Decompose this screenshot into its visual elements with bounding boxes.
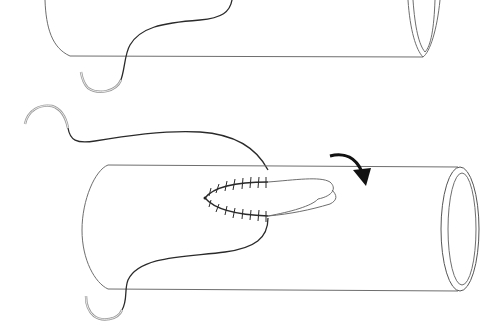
bottom-panel	[25, 106, 479, 320]
lower-stitches	[209, 200, 266, 222]
bottom-tube-outline-top	[108, 165, 458, 167]
bottom-suture-thread-upper	[68, 128, 268, 170]
rotation-arrow-icon	[330, 155, 371, 186]
bottom-lower-needle	[86, 296, 122, 319]
top-suture-thread	[120, 0, 232, 82]
bottom-curved-needle	[25, 106, 68, 128]
top-tube-opening	[408, 0, 440, 57]
top-panel	[45, 0, 440, 92]
upper-stitches	[209, 177, 266, 196]
bottom-tube-opening	[441, 167, 479, 291]
suture-illustration	[0, 0, 482, 331]
top-curved-needle	[81, 72, 121, 92]
bottom-tube-outline-left-bottom	[82, 165, 458, 291]
bottom-suture-thread-lower	[122, 218, 268, 310]
tissue-flap	[268, 179, 336, 216]
running-suture	[204, 177, 269, 222]
top-tube-outline	[45, 0, 423, 57]
